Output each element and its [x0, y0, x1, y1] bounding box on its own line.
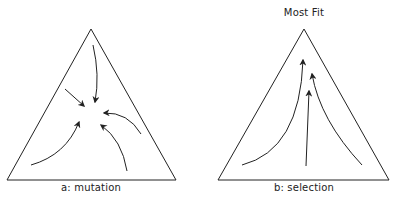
arrow-middle-straight	[306, 91, 309, 166]
arrow-upper-left	[65, 89, 84, 106]
panel-b-selection	[218, 29, 389, 180]
panel-a-mutation	[7, 29, 176, 180]
arrow-right	[104, 113, 141, 134]
arrow-lower-right	[101, 125, 127, 171]
simplex-triangle-a	[7, 29, 176, 180]
arrow-top	[93, 45, 97, 102]
arrow-left-curve	[242, 60, 303, 165]
apex-label-most-fit: Most Fit	[284, 7, 324, 18]
simplex-triangle-b	[218, 29, 389, 180]
caption-a: a: mutation	[61, 182, 121, 193]
diagram-canvas	[0, 0, 398, 199]
caption-b: b: selection	[274, 182, 334, 193]
arrow-lower-left	[31, 122, 79, 165]
